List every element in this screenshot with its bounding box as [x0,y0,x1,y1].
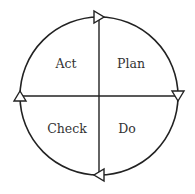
quadrant-check-label: Check [47,121,87,136]
quadrant-do-label: Do [118,121,136,136]
quadrant-act-label: Act [55,56,76,71]
quadrant-plan-label: Plan [117,56,145,71]
pdca-diagram [0,0,195,194]
